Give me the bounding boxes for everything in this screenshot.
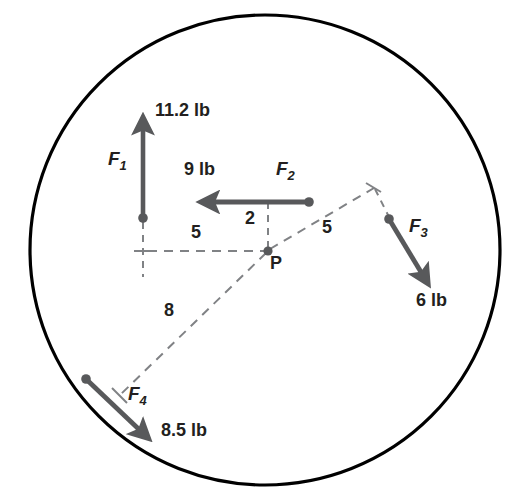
construction-connector-f3 <box>375 189 389 217</box>
f1-magnitude-label: 11.2 lb <box>155 100 210 121</box>
force-diagram: 11.2 lb F1 9 lb F2 F3 6 lb F4 8.5 lb 5 2… <box>0 0 527 499</box>
dimension-label-8-downleft: 8 <box>164 300 174 321</box>
dimension-label-5-upright: 5 <box>322 217 332 238</box>
f3-magnitude-label: 6 lb <box>416 290 447 311</box>
dimension-label-2-vertical: 2 <box>245 208 255 229</box>
figure-canvas <box>0 0 527 499</box>
f4-name-label: F4 <box>128 383 147 408</box>
f1-name-label: F1 <box>108 148 127 173</box>
f2-magnitude-label: 9 lb <box>184 159 215 180</box>
construction-line-8-downleft <box>119 253 266 396</box>
f4-magnitude-label: 8.5 lb <box>161 420 207 441</box>
f3-name-label: F3 <box>409 215 428 240</box>
dimension-label-5-horizontal: 5 <box>191 222 201 243</box>
f2-name-label: F2 <box>276 158 295 183</box>
point-p-label: P <box>270 253 282 274</box>
